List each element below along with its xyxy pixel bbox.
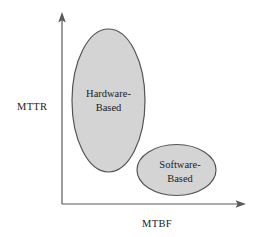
y-axis-group [58,12,66,204]
mtbf-mttr-quadrant-diagram: Hardware- Based Software- Based MTTR MTB… [0,0,269,237]
x-axis-label: MTBF [142,218,172,229]
software-based-label-line2: Based [167,173,193,184]
software-based-label-line1: Software- [159,159,201,170]
region-hardware-based[interactable]: Hardware- Based [72,29,145,172]
x-axis-group [62,200,246,208]
region-software-based[interactable]: Software- Based [137,145,216,196]
diagram-canvas: Hardware- Based Software- Based MTTR MTB… [0,0,269,237]
hardware-based-label-line1: Hardware- [86,88,131,99]
hardware-based-label-line2: Based [96,102,122,113]
y-axis-label: MTTR [17,101,47,112]
hardware-based-ellipse[interactable] [72,29,145,172]
